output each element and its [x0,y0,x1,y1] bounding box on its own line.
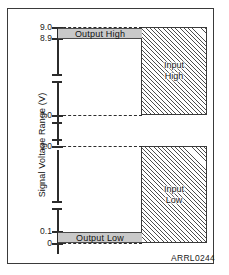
input-low-region: Input Low [141,146,207,243]
input-high-label: Input High [164,60,184,82]
output-low-band: Output Low [58,232,142,243]
figure-caption: ARRL0244 [171,253,215,263]
input-low-label-line1: Input [164,184,184,194]
input-low-label-line2: Low [166,195,183,205]
output-high-label: Output High [75,29,125,39]
plot-area: 9.0 8.9 7.0 3.0 0.1 0 Signal Voltage Ran… [0,0,229,275]
y-axis-segment-lower [57,150,59,202]
input-high-label-line2: High [165,71,184,81]
voltage-range-diagram: 9.0 8.9 7.0 3.0 0.1 0 Signal Voltage Ran… [0,0,229,275]
axis-break-mid-bottom [52,122,62,124]
tick-label-8-9: 8.9 [22,34,52,43]
output-high-band: Output High [58,28,142,39]
input-high-label-line1: Input [164,60,184,70]
input-high-region: Input High [141,27,207,115]
threshold-line-3-0 [58,146,142,147]
input-low-label: Input Low [164,184,184,206]
y-axis-segment-middle [57,81,59,145]
y-axis-title: Signal Voltage Range (V) [37,55,47,235]
axis-break-lower-a [52,201,62,203]
axis-break-upper-top [52,74,62,76]
axis-break-lower-b [52,208,62,210]
threshold-line-0 [58,243,142,244]
output-low-label: Output Low [76,233,124,243]
tick-label-0: 0 [22,239,52,248]
axis-break-lower-top [52,139,62,141]
threshold-line-7-0 [58,115,142,116]
tick-label-9-0: 9.0 [22,23,52,32]
axis-break-upper-bottom [52,81,62,83]
